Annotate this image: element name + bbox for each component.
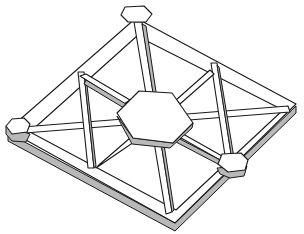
top-node (121, 6, 152, 22)
right-node (217, 153, 248, 178)
left-node (6, 118, 30, 142)
diagram-canvas (0, 0, 304, 234)
frame-drawing (0, 0, 304, 234)
